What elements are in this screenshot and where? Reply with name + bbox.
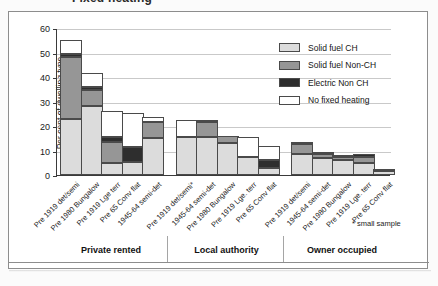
bar-segment <box>81 90 103 106</box>
bar-segment <box>196 122 218 137</box>
chart-figure: Fixed heating Per cent of dwelling type … <box>0 0 438 286</box>
legend-item-1[interactable]: Solid fuel Non-CH <box>279 58 376 73</box>
legend-label: No fixed heating <box>308 95 369 105</box>
y-axis-tick <box>53 78 57 79</box>
y-axis-tick-label: 10 <box>40 148 50 157</box>
group-label-1: Local authority <box>194 245 259 255</box>
group-label-0: Private rented <box>81 245 141 255</box>
chart-legend: Solid fuel CHSolid fuel Non-CHElectric N… <box>279 40 376 110</box>
chart-title: Fixed heating <box>72 0 152 5</box>
bar-segment <box>60 54 82 58</box>
footnote: * small sample <box>352 219 412 229</box>
bar-segment <box>81 87 103 91</box>
bottom-rule <box>9 262 429 263</box>
y-axis-tick <box>53 54 57 55</box>
legend-swatch <box>279 96 300 105</box>
group-separator <box>283 236 284 262</box>
gridline <box>57 29 391 30</box>
bar-segment <box>81 73 103 86</box>
y-axis-tick <box>53 29 57 30</box>
legend-label: Electric Non CH <box>308 78 368 88</box>
bar-segment <box>142 122 164 138</box>
frame-shadow <box>9 270 431 272</box>
legend-item-2[interactable]: Electric Non CH <box>279 75 376 90</box>
y-axis-tick-label: 20 <box>40 123 50 132</box>
group-separator <box>167 236 168 262</box>
y-axis-tick <box>53 127 57 128</box>
bar-segment <box>60 119 82 175</box>
y-axis-tick-label: 0 <box>45 172 50 181</box>
y-axis-tick <box>53 103 57 104</box>
y-axis-tick-label: 60 <box>40 25 50 34</box>
legend-swatch <box>279 43 300 52</box>
legend-swatch <box>279 61 300 70</box>
legend-item-3[interactable]: No fixed heating <box>279 93 376 108</box>
legend-item-0[interactable]: Solid fuel CH <box>279 40 376 55</box>
y-axis-tick <box>53 176 57 177</box>
bar-segment <box>142 117 164 123</box>
y-axis-tick-label: 30 <box>40 99 50 108</box>
bar-segment <box>60 57 82 118</box>
legend-label: Solid fuel CH <box>308 43 358 53</box>
legend-swatch <box>279 78 300 87</box>
legend-label: Solid fuel Non-CH <box>308 60 376 70</box>
bar-segment <box>101 111 123 137</box>
bar-segment <box>196 120 218 122</box>
bar-segment <box>176 120 198 137</box>
bar-segment <box>60 40 82 53</box>
y-axis-tick-label: 50 <box>40 50 50 59</box>
y-axis-tick-label: 40 <box>40 74 50 83</box>
y-axis-tick <box>53 152 57 153</box>
group-label-2: Owner occupied <box>307 245 377 255</box>
